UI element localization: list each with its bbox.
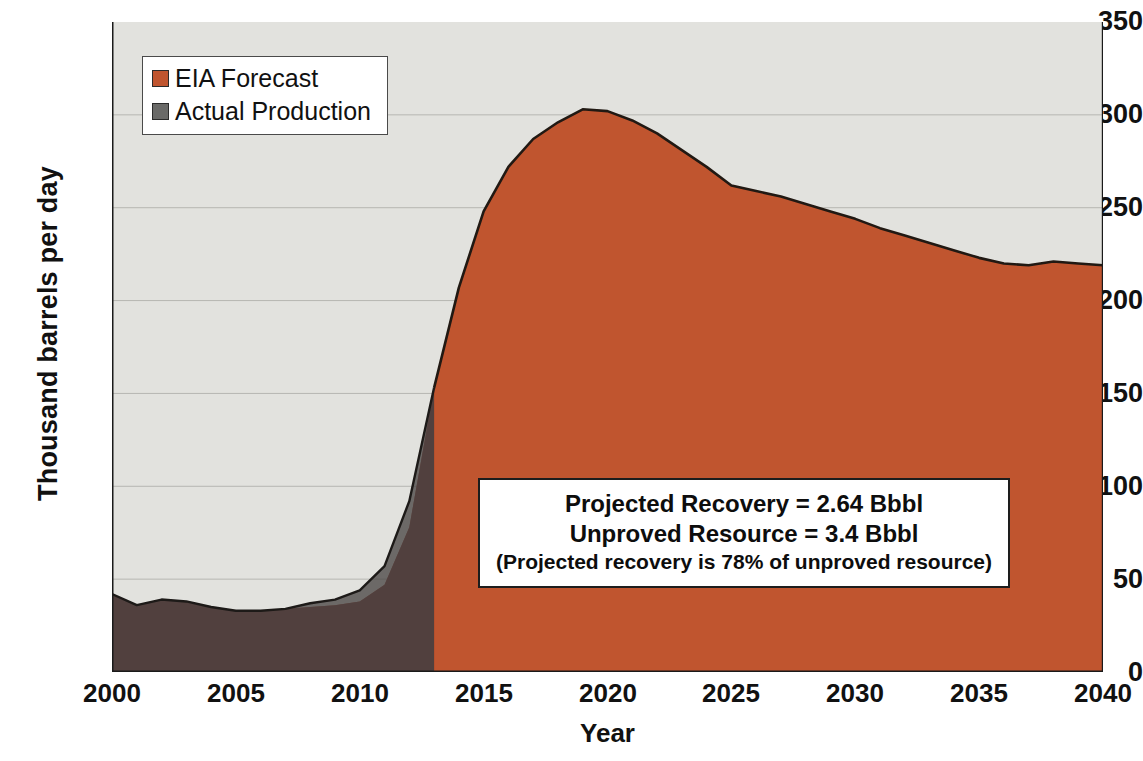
x-tick-label: 2010 (300, 680, 420, 706)
y-axis-title: Thousand barrels per day (33, 24, 64, 644)
x-tick-label: 2040 (1043, 680, 1143, 706)
legend-swatch-icon (152, 70, 169, 87)
x-axis-title: Year (112, 718, 1103, 749)
x-tick-label: 2035 (919, 680, 1039, 706)
legend-item-eia-forecast: EIA Forecast (152, 62, 371, 95)
annotation-box: Projected Recovery = 2.64 Bbbl Unproved … (478, 478, 1010, 588)
annotation-line-2: Unproved Resource = 3.4 Bbbl (496, 519, 992, 549)
x-tick-label: 2030 (795, 680, 915, 706)
chart-figure: Thousand barrels per day 350 300 250 200… (0, 0, 1143, 761)
x-tick-label: 2025 (671, 680, 791, 706)
x-tick-label: 2005 (176, 680, 296, 706)
annotation-line-1: Projected Recovery = 2.64 Bbbl (496, 489, 992, 519)
x-tick-label: 2020 (548, 680, 668, 706)
legend-label: EIA Forecast (175, 66, 318, 91)
legend-swatch-icon (152, 103, 169, 120)
x-tick-label: 2015 (424, 680, 544, 706)
legend-label: Actual Production (175, 99, 371, 124)
annotation-line-3: (Projected recovery is 78% of unproved r… (496, 549, 992, 575)
chart-legend: EIA Forecast Actual Production (142, 56, 388, 135)
legend-item-actual-production: Actual Production (152, 95, 371, 128)
x-tick-label: 2000 (52, 680, 172, 706)
